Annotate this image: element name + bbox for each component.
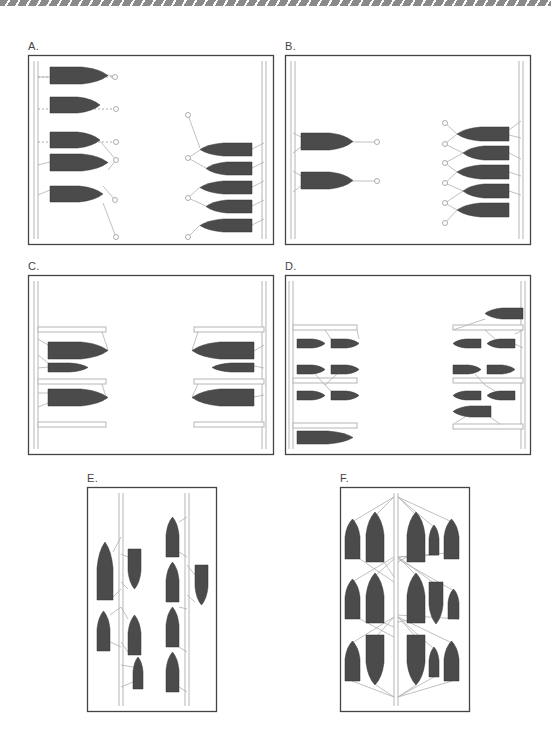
buoy-icon xyxy=(114,235,119,240)
finger-pier xyxy=(453,325,523,330)
finger-pier xyxy=(453,424,523,429)
buoy-icon xyxy=(375,140,380,145)
panel-c xyxy=(28,275,274,455)
finger-pier xyxy=(293,423,357,428)
panel-f xyxy=(340,487,470,712)
panel-d xyxy=(285,275,531,455)
buoy-icon xyxy=(443,181,448,186)
buoy-icon xyxy=(113,198,118,203)
finger-pier xyxy=(38,327,106,332)
panel-label-e: E. xyxy=(87,472,98,484)
finger-pier xyxy=(38,422,106,427)
buoy-icon xyxy=(443,221,448,226)
panel-b xyxy=(285,55,531,245)
buoy-icon xyxy=(186,156,191,161)
panel-label-d: D. xyxy=(285,260,297,272)
buoy-icon xyxy=(443,142,448,147)
buoy-icon xyxy=(443,201,448,206)
finger-pier xyxy=(293,325,357,330)
panel-label-a: A. xyxy=(28,40,39,52)
buoy-icon xyxy=(186,113,191,118)
buoy-icon xyxy=(443,121,448,126)
decorative-stripe-border xyxy=(0,0,551,6)
buoy-icon xyxy=(113,75,118,80)
panel-e xyxy=(87,487,217,712)
finger-pier xyxy=(38,379,106,384)
finger-pier xyxy=(194,379,264,384)
panel-label-f: F. xyxy=(340,472,349,484)
buoy-icon xyxy=(114,158,119,163)
finger-pier xyxy=(194,327,264,332)
buoy-icon xyxy=(443,161,448,166)
panel-label-b: B. xyxy=(285,40,296,52)
buoy-icon xyxy=(186,196,191,201)
buoy-icon xyxy=(114,107,119,112)
buoy-icon xyxy=(114,140,119,145)
buoy-icon xyxy=(375,179,380,184)
finger-pier xyxy=(453,378,523,383)
panel-label-c: C. xyxy=(28,260,40,272)
panel-a xyxy=(28,55,274,245)
finger-pier xyxy=(194,422,264,427)
finger-pier xyxy=(293,378,357,383)
buoy-icon xyxy=(186,235,191,240)
